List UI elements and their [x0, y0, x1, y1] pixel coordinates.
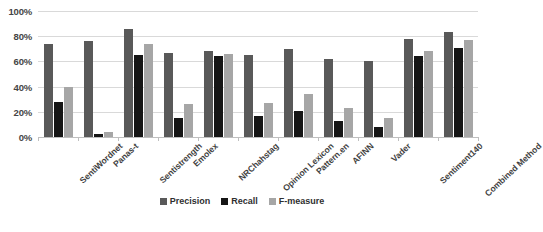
- y-axis-tick-label: 80%: [14, 31, 32, 42]
- x-axis-label: Vader: [389, 141, 413, 164]
- y-axis-tick-label: 20%: [14, 106, 32, 117]
- bar-fmeasure: [144, 44, 153, 137]
- bar-groups: [38, 11, 478, 137]
- y-axis-tick-label: 60%: [14, 56, 32, 67]
- y-axis: 0%20%40%60%80%100%: [0, 11, 36, 137]
- x-axis-labels: SentiWordnetPanas-tSentistrengthEmolexNR…: [38, 141, 478, 189]
- bar-group: [78, 11, 118, 137]
- x-axis-label: Sentiment140: [437, 141, 484, 186]
- bar-precision: [164, 53, 173, 137]
- bar-recall: [214, 56, 223, 137]
- bar-group: [238, 11, 278, 137]
- plot-area: [38, 11, 478, 137]
- bar-precision: [204, 51, 213, 137]
- bar-recall: [54, 102, 63, 137]
- bar-fmeasure: [264, 103, 273, 137]
- y-axis-tick-label: 40%: [14, 81, 32, 92]
- legend-swatch-icon: [269, 198, 276, 205]
- bar-group: [118, 11, 158, 137]
- bar-group: [278, 11, 318, 137]
- bar-group: [398, 11, 438, 137]
- legend-swatch-icon: [221, 198, 228, 205]
- bar-precision: [124, 29, 133, 137]
- bar-precision: [44, 44, 53, 137]
- y-axis-tick-label: 0%: [19, 132, 32, 143]
- bar-group: [358, 11, 398, 137]
- legend-item-precision[interactable]: Precision: [160, 196, 211, 206]
- legend-item-recall[interactable]: Recall: [221, 196, 258, 206]
- bar-precision: [244, 55, 253, 137]
- legend-label: Recall: [231, 196, 258, 206]
- x-axis-label: NRChahstag: [236, 141, 280, 183]
- legend-swatch-icon: [160, 198, 167, 205]
- bar-precision: [444, 32, 453, 137]
- bar-group: [38, 11, 78, 137]
- bar-fmeasure: [184, 104, 193, 137]
- bar-fmeasure: [304, 94, 313, 137]
- bar-fmeasure: [64, 87, 73, 137]
- legend-label: F-measure: [279, 196, 325, 206]
- bar-precision: [364, 61, 373, 137]
- legend-item-fmeasure[interactable]: F-measure: [269, 196, 325, 206]
- bar-group: [198, 11, 238, 137]
- bar-recall: [294, 111, 303, 137]
- bar-precision: [324, 59, 333, 137]
- bar-recall: [334, 121, 343, 137]
- bar-fmeasure: [224, 54, 233, 137]
- bar-recall: [134, 55, 143, 137]
- y-axis-tick-label: 100%: [9, 6, 33, 17]
- bar-recall: [254, 116, 263, 137]
- bar-recall: [454, 48, 463, 137]
- bar-fmeasure: [344, 108, 353, 137]
- bar-group: [438, 11, 478, 137]
- bar-group: [158, 11, 198, 137]
- bar-recall: [174, 118, 183, 137]
- x-axis-label: Combined Method: [483, 141, 543, 198]
- bar-precision: [404, 39, 413, 137]
- chart-legend: PrecisionRecallF-measure: [0, 196, 484, 206]
- bar-fmeasure: [424, 51, 433, 137]
- x-axis-label: AFINN: [350, 141, 376, 166]
- bar-fmeasure: [384, 118, 393, 137]
- bar-group: [318, 11, 358, 137]
- bar-recall: [374, 127, 383, 137]
- bar-precision: [84, 41, 93, 137]
- bar-fmeasure: [464, 40, 473, 137]
- legend-label: Precision: [170, 196, 211, 206]
- bar-precision: [284, 49, 293, 137]
- bar-recall: [414, 56, 423, 137]
